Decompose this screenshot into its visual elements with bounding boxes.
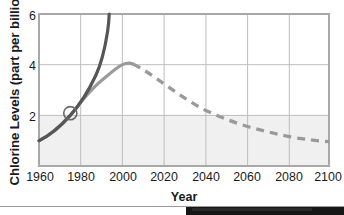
chlorine-levels-chart: Chlorine Levels (part per billion) 6 4 2… <box>0 0 344 215</box>
shaded-region-below-2ppb <box>39 115 329 166</box>
scan-edge-dark-strip <box>186 207 344 215</box>
plot-area <box>0 0 344 215</box>
